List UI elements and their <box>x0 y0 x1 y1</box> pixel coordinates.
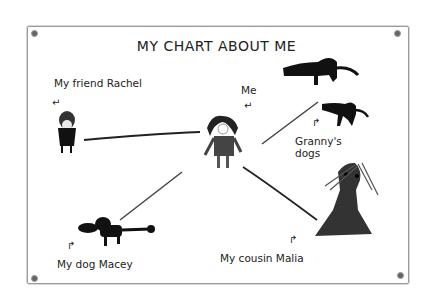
granny-dog-2 <box>322 102 368 126</box>
line-me-dog <box>120 172 182 220</box>
arrow-icon: ↱ <box>67 240 75 251</box>
me-figure <box>205 116 241 168</box>
malia-figure <box>315 163 378 236</box>
label-me: Me <box>241 84 257 96</box>
label-dog: My dog Macey <box>57 258 133 270</box>
label-cousin: My cousin Malia <box>220 252 304 264</box>
rachel-figure <box>58 111 76 153</box>
macey-dog <box>78 217 155 246</box>
arrow-icon: ↱ <box>289 234 297 245</box>
line-me-friend <box>84 132 200 140</box>
label-granny-dogs-1: Granny's <box>295 135 342 147</box>
granny-dog-1 <box>283 58 358 85</box>
arrow-icon: ↱ <box>312 117 320 128</box>
label-friend: My friend Rachel <box>54 77 142 89</box>
label-granny-dogs-2: dogs <box>295 147 320 159</box>
line-me-cousin <box>243 167 317 220</box>
arrow-icon: ↵ <box>244 100 252 111</box>
arrow-icon: ↵ <box>52 97 60 108</box>
